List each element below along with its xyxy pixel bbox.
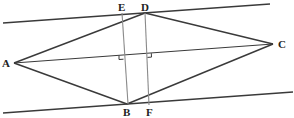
segment-EB bbox=[122, 13, 128, 104]
segment-DF bbox=[145, 13, 149, 105]
label-D: D bbox=[141, 1, 149, 13]
top-parallel-line bbox=[3, 4, 270, 23]
label-F: F bbox=[146, 106, 153, 118]
side-BA bbox=[14, 63, 127, 104]
label-A: A bbox=[2, 57, 10, 69]
right-angle-mark-E bbox=[119, 56, 124, 60]
geometry-diagram: A B C D E F bbox=[0, 0, 294, 118]
label-B: B bbox=[123, 106, 131, 118]
label-C: C bbox=[278, 38, 286, 50]
side-DC bbox=[145, 13, 273, 44]
right-angle-mark-D bbox=[148, 53, 152, 57]
label-E: E bbox=[118, 1, 125, 13]
